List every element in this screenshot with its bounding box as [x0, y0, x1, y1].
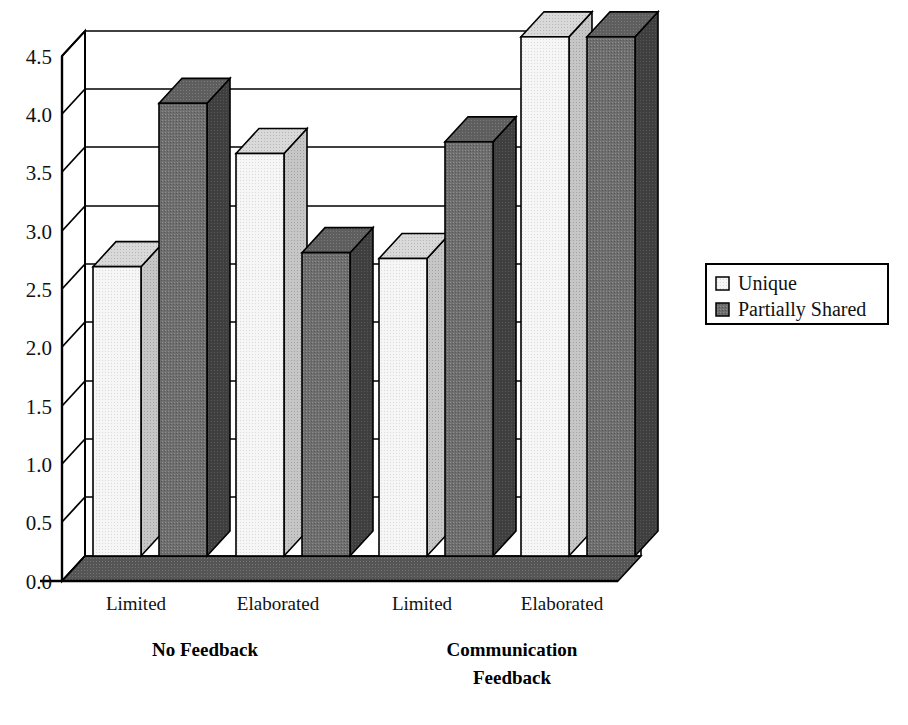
y-tick-label: 4.5 — [26, 45, 52, 69]
y-tick-label: 3.5 — [26, 161, 52, 185]
bar-chart: 4.5 4.0 3.5 3.0 2.5 2.0 1.5 1.0 0.5 0.0 … — [0, 0, 908, 725]
y-tick-label: 3.0 — [26, 220, 52, 244]
y-tick-label: 2.5 — [26, 278, 52, 302]
plot-floor — [62, 556, 641, 581]
bar-front-face — [445, 142, 493, 556]
plot-left-wall — [62, 31, 85, 581]
category-label: Limited — [392, 593, 453, 614]
group-label-communication-feedback-line2: Feedback — [473, 667, 552, 688]
bar-front-face — [93, 267, 141, 556]
bar-partially-shared — [445, 117, 516, 556]
category-label: Elaborated — [237, 593, 320, 614]
legend: Unique Partially Shared — [706, 264, 888, 324]
bar-side-face — [207, 78, 230, 556]
y-axis-ticks: 4.5 4.0 3.5 3.0 2.5 2.0 1.5 1.0 0.5 0.0 — [26, 45, 52, 594]
bar-unique — [236, 129, 307, 557]
bar-front-face — [236, 154, 284, 557]
y-tick-label: 1.0 — [26, 453, 52, 477]
x-axis-group-labels: No Feedback Communication Feedback — [152, 639, 578, 688]
y-tick-label: 0.0 — [26, 570, 52, 594]
y-tick-label: 0.5 — [26, 511, 52, 535]
legend-label-unique: Unique — [738, 272, 797, 295]
category-label: Limited — [106, 593, 167, 614]
bar-side-face — [493, 117, 516, 556]
legend-swatch-unique — [716, 277, 729, 290]
y-tick-label: 1.5 — [26, 395, 52, 419]
bar-partially-shared — [159, 78, 230, 556]
category-label: Elaborated — [521, 593, 604, 614]
bar-front-face — [302, 253, 350, 556]
y-tick-label: 2.0 — [26, 336, 52, 360]
bar-partially-shared — [302, 228, 373, 556]
bar-front-face — [587, 37, 635, 556]
bar-front-face — [159, 103, 207, 556]
legend-label-partially-shared: Partially Shared — [738, 298, 866, 321]
legend-swatch-partially-shared — [716, 303, 729, 316]
bar-unique — [521, 12, 592, 556]
group-label-communication-feedback-line1: Communication — [447, 639, 578, 660]
group-label-no-feedback: No Feedback — [152, 639, 259, 660]
x-axis-category-labels: Limited Elaborated Limited Elaborated — [106, 593, 604, 614]
bar-partially-shared — [587, 12, 658, 556]
y-tick-label: 4.0 — [26, 103, 52, 127]
bar-unique — [379, 234, 450, 557]
bar-side-face — [635, 12, 658, 556]
chart-canvas: 4.5 4.0 3.5 3.0 2.5 2.0 1.5 1.0 0.5 0.0 … — [0, 0, 908, 725]
bar-side-face — [350, 228, 373, 556]
bar-front-face — [521, 37, 569, 556]
bar-front-face — [379, 259, 427, 557]
bar-unique — [93, 242, 164, 556]
